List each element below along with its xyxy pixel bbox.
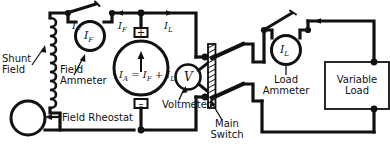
field-ammeter-label: Field Ammeter: [60, 64, 107, 86]
main-switch-lower-blade[interactable]: [212, 84, 243, 98]
shunt-field-coil: [50, 18, 56, 108]
field-ammeter-symbol-sub: F: [88, 36, 93, 44]
positive-terminal-label: +: [134, 28, 148, 38]
wire-coil-bottom-to-rheostat: [50, 108, 60, 113]
armature-current-equation: IA = IF + IL: [119, 70, 175, 84]
armature-eq-il-sub: L: [170, 75, 175, 83]
shunt-field-label-leader-head: [41, 45, 47, 53]
circuit-diagram: Shunt Field Field Ammeter Field Rheostat…: [0, 0, 390, 148]
variable-load-top-node: [371, 59, 378, 66]
load-ammeter-label: Load Ammeter: [252, 74, 320, 96]
current-label-field-left: IF: [72, 21, 81, 35]
armature-eq-mid: = I: [128, 69, 147, 80]
wire-main-switch-upper-to-load-ammeter: [243, 44, 264, 62]
load-ammeter-symbol: IL: [280, 45, 289, 59]
current-label-field-left-sub: F: [76, 26, 81, 34]
variable-load-label: Variable Load: [325, 74, 389, 96]
current-label-load: IL: [164, 21, 173, 35]
negative-terminal-label: –: [134, 99, 148, 109]
current-label-field: IF: [118, 21, 127, 35]
field-ammeter-label-leader-head: [80, 54, 86, 62]
current-arrow-field-head: [117, 10, 123, 15]
main-switch-upper-blade[interactable]: [212, 44, 243, 58]
wire-rheostat-to-bottom-bus: [45, 117, 60, 130]
field-ammeter-symbol: IF: [84, 31, 93, 45]
load-ammeter-symbol-sub: L: [284, 50, 289, 58]
shunt-field-label: Shunt Field: [2, 53, 31, 75]
armature-eq-plus: + I: [152, 69, 171, 80]
main-switch-label: Main Switch: [203, 118, 251, 140]
field-switch-blade[interactable]: [69, 4, 97, 13]
voltmeter-symbol: V: [184, 72, 193, 82]
load-switch-contact-terminal: [305, 27, 311, 33]
prime-mover-pulley: [11, 101, 45, 135]
current-arrow-right-head: [314, 18, 321, 23]
load-switch-blade[interactable]: [265, 13, 293, 30]
voltmeter-label: Voltmeter: [162, 99, 211, 110]
wire-load-ammeter-to-variable-load-top: [308, 21, 374, 62]
current-arrow-load-head: [166, 10, 173, 15]
current-label-field-sub: F: [122, 26, 127, 34]
variable-load-bottom-node: [371, 106, 378, 113]
current-label-load-sub: L: [168, 26, 173, 34]
field-rheostat-label: Field Rheostat: [62, 112, 133, 123]
